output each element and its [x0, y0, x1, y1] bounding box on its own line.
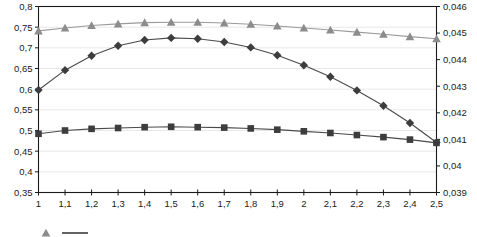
left-axis-tick-label: 0,55 [14, 104, 33, 115]
left-axis-tick-label: 0,65 [14, 63, 33, 74]
x-axis-tick-label: 1,9 [271, 198, 284, 209]
x-axis-tick-label: 2,3 [377, 198, 390, 209]
right-axis-tick-label: 0,04 [443, 160, 462, 171]
x-axis-tick-label: 2,5 [430, 198, 443, 209]
x-axis-tick-label: 1,7 [218, 198, 231, 209]
right-axis-tick-label: 0,042 [443, 107, 467, 118]
line-chart: 0,350,40,450,50,550,60,650,70,750,80,039… [0, 0, 477, 237]
marker-square [62, 127, 69, 134]
marker-square [194, 124, 201, 131]
chart-legend [42, 229, 88, 237]
x-axis-tick-label: 1,1 [58, 198, 71, 209]
marker-diamond [34, 86, 42, 94]
marker-square [88, 126, 95, 133]
left-axis-tick-label: 0,4 [19, 166, 32, 177]
marker-diamond [353, 86, 361, 94]
marker-square [115, 125, 122, 132]
left-axis-tick-label: 0,6 [19, 84, 32, 95]
marker-square [168, 123, 175, 130]
series-line-diamond [39, 38, 437, 143]
marker-square [247, 125, 254, 132]
marker-square [301, 128, 308, 135]
right-axis-tick-label: 0,045 [443, 27, 467, 38]
marker-square [221, 124, 228, 131]
marker-square [327, 130, 334, 137]
marker-triangle [42, 229, 51, 237]
x-axis-tick-label: 2,2 [350, 198, 363, 209]
left-axis-tick-label: 0,35 [14, 187, 33, 198]
marker-diamond [114, 42, 122, 50]
marker-diamond [140, 36, 148, 44]
series-line-square [39, 127, 437, 143]
marker-square [407, 136, 414, 143]
marker-diamond [379, 102, 387, 110]
marker-diamond [87, 51, 95, 59]
marker-diamond [406, 119, 414, 127]
left-axis-tick-label: 0,45 [14, 146, 33, 157]
left-axis-tick-label: 0,7 [19, 42, 32, 53]
marker-square [354, 132, 361, 139]
left-axis-tick-label: 0,75 [14, 22, 33, 33]
x-axis-tick-label: 2,1 [324, 198, 337, 209]
series-square [35, 123, 440, 146]
x-axis-tick-label: 1,4 [138, 198, 151, 209]
x-axis-tick-label: 1 [36, 198, 41, 209]
x-axis-tick-label: 1,5 [165, 198, 178, 209]
marker-square [274, 126, 281, 133]
marker-diamond [220, 38, 228, 46]
marker-diamond [326, 73, 334, 81]
marker-square [35, 131, 42, 138]
x-axis-tick-label: 1,3 [111, 198, 124, 209]
left-axis-tick-label: 0,8 [19, 1, 32, 12]
marker-square [380, 134, 387, 141]
left-axis-tick-label: 0,5 [19, 125, 32, 136]
right-axis-tick-label: 0,039 [443, 187, 467, 198]
x-axis-tick-label: 2 [301, 198, 306, 209]
series-diamond [34, 34, 440, 147]
right-axis-tick-label: 0,046 [443, 1, 467, 12]
right-axis-tick-label: 0,041 [443, 134, 467, 145]
x-axis-tick-label: 1,8 [244, 198, 257, 209]
marker-diamond [167, 34, 175, 42]
x-axis-tick-label: 2,4 [403, 198, 416, 209]
series-triangle [34, 18, 441, 42]
plot-area-border [39, 7, 437, 193]
right-axis-tick-label: 0,043 [443, 81, 467, 92]
x-axis-tick-label: 1,2 [85, 198, 98, 209]
marker-diamond [194, 35, 202, 43]
series-line-triangle [39, 22, 437, 39]
marker-diamond [247, 43, 255, 51]
x-axis-tick-label: 1,6 [191, 198, 204, 209]
right-axis-tick-label: 0,044 [443, 54, 467, 65]
chart-container: 0,350,40,450,50,550,60,650,70,750,80,039… [0, 0, 477, 237]
marker-diamond [61, 66, 69, 74]
marker-square [141, 124, 148, 131]
marker-diamond [273, 51, 281, 59]
marker-square [433, 140, 440, 147]
